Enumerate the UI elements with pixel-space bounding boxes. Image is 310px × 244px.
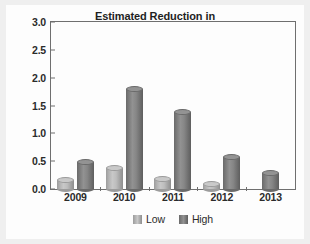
- bar-top-ellipse: [106, 165, 123, 171]
- bar-2012-low[interactable]: [203, 181, 220, 189]
- scan-background: Estimated Reduction in Unemployment Rate…: [0, 0, 310, 244]
- bar-2009-high[interactable]: [77, 159, 94, 189]
- plot-area: 0.00.51.01.52.02.53.0: [50, 21, 296, 190]
- bar-2010-low[interactable]: [106, 165, 123, 189]
- x-axis-tick-mark: [197, 187, 198, 191]
- legend-item-high[interactable]: High: [179, 213, 213, 225]
- y-axis-tick-label: 2.5: [32, 44, 51, 56]
- x-axis-tick-label: 2009: [64, 191, 87, 203]
- bar-body: [77, 162, 94, 189]
- legend-item-low[interactable]: Low: [133, 213, 165, 225]
- bar-group: [51, 22, 100, 189]
- legend-label: High: [192, 213, 213, 225]
- y-axis-tick-label: 0.5: [32, 155, 51, 167]
- x-axis-tick-mark: [100, 187, 101, 191]
- x-axis-tick-mark: [149, 187, 150, 191]
- bar-top-ellipse: [57, 177, 74, 183]
- bar-body: [174, 112, 191, 189]
- bar-2011-high[interactable]: [174, 109, 191, 189]
- legend-swatch-icon: [179, 215, 188, 224]
- bar-top-ellipse: [262, 170, 279, 176]
- y-axis-tick-label: 1.5: [32, 100, 51, 112]
- bar-group: [197, 22, 246, 189]
- legend-swatch-icon: [133, 215, 142, 224]
- bars-layer: [51, 22, 295, 189]
- y-axis-tick-label: 2.0: [32, 72, 51, 84]
- bar-body: [106, 168, 123, 189]
- x-axis-tick-label: 2011: [162, 191, 184, 203]
- bar-2009-low[interactable]: [57, 177, 74, 189]
- bar-body: [126, 89, 143, 189]
- bar-2012-high[interactable]: [223, 154, 240, 189]
- bar-group: [149, 22, 198, 189]
- x-axis-tick-label: 2012: [211, 191, 234, 203]
- chart-card: Estimated Reduction in Unemployment Rate…: [6, 5, 304, 239]
- x-axis-tick-label: 2010: [113, 191, 136, 203]
- y-axis-tick-label: 0.0: [32, 183, 51, 195]
- bar-2011-low[interactable]: [154, 176, 171, 189]
- y-axis-tick-label: 1.0: [32, 127, 51, 139]
- bar-2010-high[interactable]: [126, 86, 143, 189]
- bar-group: [246, 22, 295, 189]
- bar-group: [100, 22, 149, 189]
- bar-top-ellipse: [126, 86, 143, 92]
- bar-body: [223, 157, 240, 189]
- bar-2013-high[interactable]: [262, 170, 279, 189]
- x-axis-tick-label: 2013: [259, 191, 282, 203]
- chart-legend: LowHigh: [50, 213, 296, 225]
- x-axis-tick-mark: [246, 187, 247, 191]
- legend-label: Low: [146, 213, 165, 225]
- y-axis-tick-label: 3.0: [32, 16, 51, 28]
- x-axis: 20092010201120122013: [50, 191, 296, 207]
